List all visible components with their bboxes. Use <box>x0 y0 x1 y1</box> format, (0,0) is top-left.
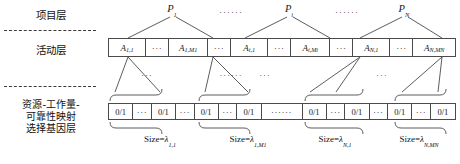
size-label-1,M1: Size=λ1,M1 <box>230 134 267 146</box>
gene-ellipsis-cell-7: ······ <box>262 104 303 119</box>
gene-ellipsis-cell-11: ··· <box>370 104 388 119</box>
interlayer-ellipsis-0: ··· <box>141 70 153 80</box>
size-label-1,1: Size=λ1,1 <box>144 134 176 146</box>
interlayer-ellipsis-2: ··· <box>259 70 271 80</box>
gene-ellipsis-cell-5: ··· <box>219 104 237 119</box>
interlayer-ellipsis-3: ··· <box>376 70 388 80</box>
gene-cell-bit-4: 0/1 <box>195 104 219 119</box>
activity-cell-N,1: AN,1 <box>353 39 390 56</box>
size-label-N,1: Size=λN,1 <box>319 134 352 146</box>
gene-ellipsis-cell-13: ··· <box>412 104 430 119</box>
interlayer-ellipsis-1: ······ <box>220 70 243 80</box>
project-ellipsis-1: ······ <box>335 7 359 17</box>
size-label-N,MN: Size=λN,MN <box>400 134 439 146</box>
activity-ellipsis-cell-3: ··· <box>208 39 231 56</box>
gene-cell-bit-12: 0/1 <box>388 104 412 119</box>
activity-cell-1,1: A1,1 <box>109 39 146 56</box>
gene-ellipsis-cell-9: ··· <box>327 104 345 119</box>
gene-layer-row: 0/1···0/1···0/1···0/1······0/1···0/1···0… <box>108 103 456 120</box>
chromosome-encoding-diagram: 项目层 活动层 资源-工作量- 可靠性映射 选择基因层 <box>0 0 460 164</box>
project-node-i: Pi <box>285 3 293 16</box>
project-node-N: PN <box>399 3 410 16</box>
activity-ellipsis-cell-1: ··· <box>146 39 169 56</box>
gene-cell-bit-10: 0/1 <box>345 104 369 119</box>
activity-cell-i,1: Ai,1 <box>231 39 268 56</box>
activity-cell-1,M1: A1,M1 <box>169 39 208 56</box>
project-ellipsis-0: ······ <box>219 7 243 17</box>
gene-cell-bit-14: 0/1 <box>431 104 455 119</box>
activity-ellipsis-cell-7: ··· <box>330 39 353 56</box>
activity-ellipsis-cell-9: ··· <box>390 39 413 56</box>
gene-cell-bit-8: 0/1 <box>303 104 327 119</box>
activity-layer-row: A1,1···A1,M1···Ai,1···Ai,Mi···AN,1···AN,… <box>108 38 456 57</box>
project-node-1: P1 <box>167 3 177 16</box>
gene-ellipsis-cell-3: ··· <box>176 104 194 119</box>
activity-cell-N,MN: AN,MN <box>413 39 455 56</box>
activity-cell-i,Mi: Ai,Mi <box>291 39 330 56</box>
gene-ellipsis-cell-1: ··· <box>133 104 151 119</box>
gene-cell-bit-6: 0/1 <box>237 104 261 119</box>
activity-ellipsis-cell-5: ··· <box>268 39 291 56</box>
gene-cell-bit-0: 0/1 <box>109 104 133 119</box>
gene-cell-bit-2: 0/1 <box>152 104 176 119</box>
